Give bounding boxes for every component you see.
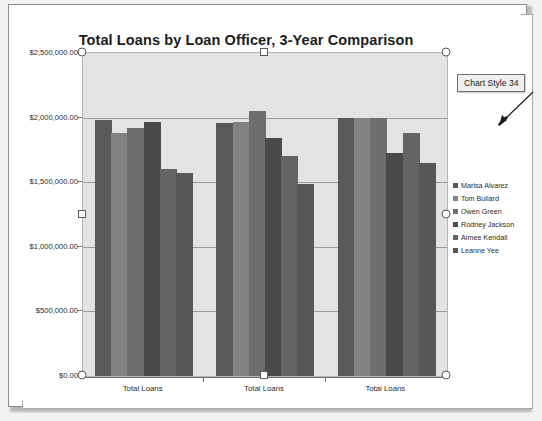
plot-area[interactable] (82, 52, 448, 377)
resize-handle[interactable] (442, 48, 451, 57)
bar[interactable] (95, 120, 112, 376)
x-axis-category-label: Total Loans (244, 384, 284, 393)
y-axis-tick-label: $500,000.00 (36, 306, 78, 315)
bar[interactable] (233, 122, 250, 376)
legend-item[interactable]: Owen Green (453, 205, 523, 218)
bar[interactable] (176, 173, 193, 376)
resize-handle[interactable] (78, 48, 87, 57)
y-axis-tick-label: $1,500,000.00 (29, 177, 78, 186)
legend-swatch-icon (453, 235, 458, 240)
legend-item[interactable]: Aimee Kendall (453, 231, 523, 244)
legend-swatch-icon (453, 248, 458, 253)
bar[interactable] (160, 169, 177, 376)
x-axis-category-label: Total Loans (365, 384, 405, 393)
bar[interactable] (338, 118, 355, 376)
legend-swatch-icon (453, 196, 458, 201)
legend-item[interactable]: Rodney Jackson (453, 218, 523, 231)
bar[interactable] (386, 153, 403, 376)
legend-item-label: Owen Green (461, 207, 502, 216)
bar[interactable] (127, 128, 144, 376)
bar[interactable] (281, 156, 298, 376)
bar[interactable] (419, 163, 436, 376)
y-axis-tick-label: $2,000,000.00 (29, 112, 78, 121)
x-axis-category-label: Total Loans (123, 384, 163, 393)
resize-handle[interactable] (78, 210, 86, 218)
resize-handle[interactable] (78, 371, 87, 380)
legend-swatch-icon (453, 222, 458, 227)
legend-item-label: Marisa Alvarez (461, 181, 508, 190)
bar[interactable] (265, 138, 282, 376)
x-axis-tick (203, 378, 204, 382)
bar[interactable] (370, 118, 387, 376)
legend-item[interactable]: Tom Bullard (453, 192, 523, 205)
resize-handle[interactable] (442, 371, 451, 380)
chart-legend[interactable]: Marisa AlvarezTom BullardOwen GreenRodne… (453, 179, 523, 257)
legend-item[interactable]: Leanne Yee (453, 244, 523, 257)
legend-swatch-icon (453, 209, 458, 214)
legend-swatch-icon (453, 183, 458, 188)
y-axis: $2,500,000.00$2,000,000.00$1,500,000.00$… (16, 12, 78, 401)
legend-item-label: Tom Bullard (461, 194, 499, 203)
chart-title: Total Loans by Loan Officer, 3-Year Comp… (16, 32, 476, 48)
bar[interactable] (403, 133, 420, 376)
legend-item[interactable]: Marisa Alvarez (453, 179, 523, 192)
legend-item-label: Leanne Yee (461, 246, 499, 255)
y-axis-tick-label: $1,000,000.00 (29, 241, 78, 250)
document-page: Total Loans by Loan Officer, 3-Year Comp… (0, 0, 542, 421)
resize-handle[interactable] (260, 48, 268, 56)
x-axis-tick (325, 378, 326, 382)
legend-item-label: Aimee Kendall (461, 233, 507, 242)
bar[interactable] (111, 133, 128, 376)
bar[interactable] (144, 122, 161, 376)
legend-item-label: Rodney Jackson (461, 220, 514, 229)
resize-handle[interactable] (442, 209, 451, 218)
y-axis-tick-label: $0.00 (59, 371, 78, 380)
chart-style-callout: Chart Style 34 (457, 74, 525, 92)
chart-object[interactable]: Total Loans by Loan Officer, 3-Year Comp… (16, 12, 521, 401)
bar[interactable] (216, 123, 233, 376)
bar[interactable] (297, 184, 314, 376)
bar[interactable] (249, 111, 266, 377)
y-axis-tick-label: $2,500,000.00 (29, 48, 78, 57)
resize-handle[interactable] (260, 371, 268, 379)
bar[interactable] (354, 118, 371, 376)
